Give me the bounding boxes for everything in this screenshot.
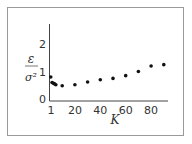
data-point [73,83,77,87]
x-tick-label: 80 [144,104,158,117]
data-point [49,75,53,79]
data-points [49,63,166,88]
y-tick-label: 2 [39,38,46,51]
x-tick-label: 1 [48,104,55,117]
data-point [86,80,90,84]
y-label-numerator: ε [28,52,34,66]
data-point [54,83,58,87]
x-axis-label: K [110,113,121,127]
x-tick-label: 60 [119,104,133,117]
x-tick-labels: 120406080 [48,104,159,117]
y-tick-label: 0 [39,93,46,106]
data-point [99,78,103,82]
data-point [124,74,128,78]
y-tick-labels: 012 [39,38,46,106]
data-point [111,77,115,81]
y-axis-label: ε σ² [25,52,38,84]
y-label-denominator: σ² [25,71,37,84]
x-tick-label: 40 [93,104,107,117]
data-point [162,63,166,67]
scatter-chart: 012 120406080 ε σ² K [0,0,192,144]
data-point [60,84,64,88]
data-point [137,70,141,74]
data-point [149,64,153,68]
y-tick-label: 1 [39,66,46,79]
x-tick-label: 20 [68,104,82,117]
